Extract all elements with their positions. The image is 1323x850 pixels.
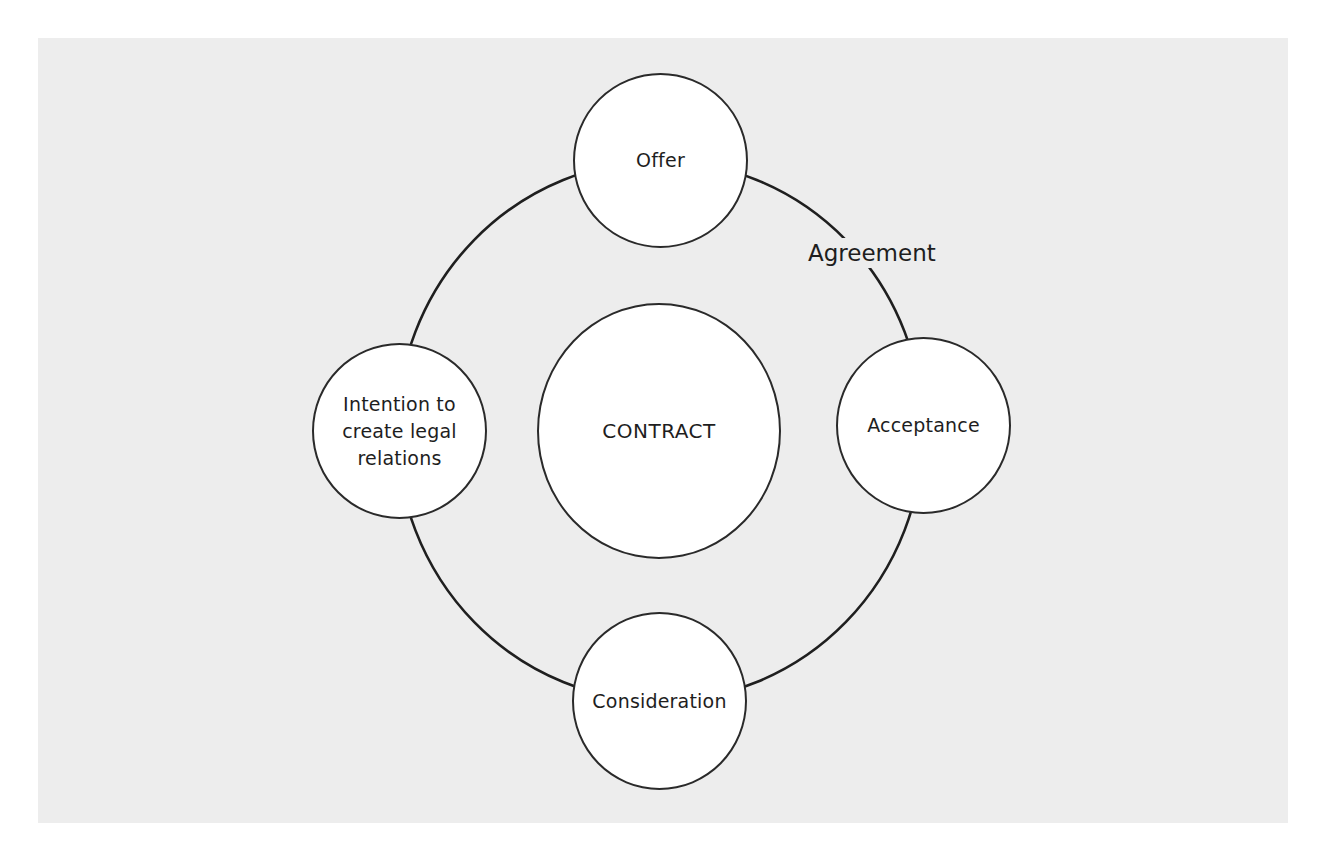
- node-intention: Intention to create legal relations: [312, 343, 487, 519]
- node-acceptance-label: Acceptance: [867, 412, 980, 439]
- node-acceptance: Acceptance: [836, 337, 1011, 514]
- node-consideration-label: Consideration: [592, 688, 726, 715]
- node-contract-label: CONTRACT: [602, 418, 715, 445]
- node-offer-label: Offer: [636, 147, 685, 174]
- node-intention-label: Intention to create legal relations: [342, 391, 457, 472]
- node-consideration: Consideration: [572, 612, 747, 790]
- node-contract: CONTRACT: [537, 303, 781, 559]
- agreement-label: Agreement: [804, 238, 940, 268]
- node-offer: Offer: [573, 73, 748, 248]
